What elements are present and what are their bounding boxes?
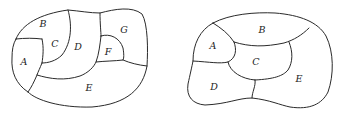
left-map-border-a-e [28, 63, 42, 92]
left-map-label-c: C [51, 38, 59, 49]
right-map-label-c: C [252, 56, 260, 67]
left-map-border-d-e [37, 62, 96, 79]
right-map-label-e: E [295, 73, 303, 84]
right-map-border-d-e [252, 80, 255, 98]
left-map-border-a-b [16, 38, 42, 39]
right-map-border-c-d [228, 62, 255, 80]
left-map-border-g-e [123, 60, 147, 66]
right-map-label-a: A [209, 40, 217, 51]
left-map-label-g: G [120, 24, 128, 35]
right-map-border-b-c [234, 28, 309, 46]
left-map-border-a-c [42, 39, 43, 63]
left-map-label-d: D [73, 41, 82, 52]
left-map-label-a: A [20, 56, 28, 67]
left-map-border-d-g [100, 13, 101, 36]
left-map-label-e: E [85, 82, 93, 93]
right-map-label-d: D [209, 81, 218, 92]
left-map-label-f: F [104, 46, 112, 57]
map-diagrams: A B C D E F G A B C D E [0, 0, 344, 115]
left-map-label-b: B [39, 18, 47, 29]
right-map-label-b: B [258, 24, 266, 35]
right-map-border-c-e [255, 42, 292, 80]
